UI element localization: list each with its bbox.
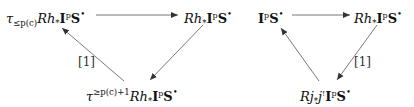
shift-label-left: [1]	[78, 55, 95, 69]
arrow-right-right-to-bottom	[337, 25, 377, 80]
bullet-superscript: •	[397, 9, 402, 19]
node-right-bottom: Rj*j!IpS•	[300, 84, 351, 107]
R-symbol: R	[300, 89, 310, 104]
S-symbol: S	[337, 89, 346, 104]
arrow-left-right-to-bottom	[150, 25, 203, 80]
node-left-top-right: Rh*IpS•	[184, 6, 232, 31]
S-symbol: S	[388, 11, 397, 26]
bullet-superscript: •	[80, 9, 85, 19]
R-symbol: R	[130, 89, 140, 104]
S-symbol: S	[269, 11, 278, 26]
R-symbol: R	[37, 11, 47, 26]
S-symbol: S	[163, 89, 172, 104]
h-symbol: h	[140, 89, 148, 104]
node-left-top-left: τ≤p(c)Rh*IpS•	[6, 6, 85, 31]
S-symbol: S	[218, 11, 227, 26]
node-right-top-right: Rh*IpS•	[354, 6, 402, 31]
bullet-superscript: •	[227, 9, 232, 19]
truncation-subscript: ≤p(c)	[13, 18, 37, 28]
node-right-top-left: IpS•	[258, 6, 284, 27]
truncation-superscript: ≥p(c)+1	[93, 87, 130, 97]
R-symbol: R	[354, 11, 364, 26]
R-symbol: R	[184, 11, 194, 26]
arrow-right-bottom-to-topleft	[281, 28, 319, 81]
shift-label-right: [1]	[354, 55, 371, 69]
bullet-superscript: •	[279, 9, 284, 19]
S-symbol: S	[71, 11, 80, 26]
h-symbol: h	[364, 11, 372, 26]
bullet-superscript: •	[346, 87, 351, 97]
h-symbol: h	[194, 11, 202, 26]
node-left-bottom: τ≥p(c)+1Rh*IpS•	[86, 84, 178, 107]
bullet-superscript: •	[173, 87, 178, 97]
